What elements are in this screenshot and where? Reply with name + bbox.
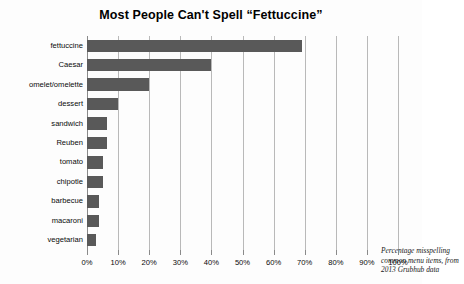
tickmark-10 [118,250,119,255]
tickmark-30 [180,250,181,255]
bar-row [87,78,398,90]
tickmark-100 [398,250,399,255]
tickmark-40 [211,250,212,255]
bar-row [87,98,398,110]
y-axis-category-labels: fettuccineCaesaromelet/omelettedessertsa… [0,36,83,250]
y-axis-label-caesar: Caesar [0,60,83,69]
tickmark-90 [367,250,368,255]
y-axis-label-vegetarian: vegetarian [0,235,83,244]
bar-row [87,117,398,129]
tickmark-60 [274,250,275,255]
y-axis-label-macaroni: macaroni [0,216,83,225]
bar-row [87,234,398,246]
bar-row [87,195,398,207]
bar-barbecue [87,195,99,207]
bar-row [87,137,398,149]
y-axis-label-sandwich: sandwich [0,119,83,128]
annotation-line-1: Percentage misspelling [381,246,464,256]
bar-chipotle [87,176,103,188]
bar-row [87,156,398,168]
bar-series [87,36,398,250]
y-axis-label-chipotle: chipotle [0,177,83,186]
tickmark-50 [243,250,244,255]
bar-sandwich [87,117,107,129]
bar-row [87,40,398,52]
bar-omelet-omelette [87,78,149,90]
tickmark-0 [87,250,88,255]
bar-row [87,215,398,227]
y-axis-label-barbecue: barbecue [0,196,83,205]
bar-row [87,59,398,71]
y-axis-label-omelet-omelette: omelet/omelette [0,80,83,89]
chart-title: Most People Can't Spell “Fettuccine” [0,8,422,22]
bar-tomato [87,156,103,168]
plot-area: Percentage misspellingcommon menu items,… [87,36,398,250]
bar-row [87,176,398,188]
y-axis-label-dessert: dessert [0,99,83,108]
x-axis-label-100: 100% [378,258,418,267]
tickmark-80 [336,250,337,255]
y-axis-label-tomato: tomato [0,157,83,166]
bar-caesar [87,59,211,71]
tickmark-70 [305,250,306,255]
y-axis-label-reuben: Reuben [0,138,83,147]
bar-macaroni [87,215,99,227]
y-axis-label-fettuccine: fettuccine [0,41,83,50]
bar-vegetarian [87,234,96,246]
gridline-100 [398,36,399,250]
bar-dessert [87,98,118,110]
tickmark-20 [149,250,150,255]
bar-fettuccine [87,40,302,52]
bar-reuben [87,137,107,149]
